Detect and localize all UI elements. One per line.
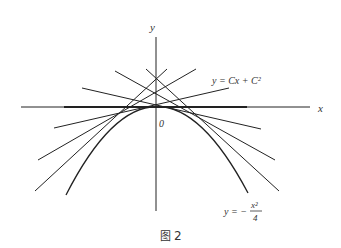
caption-number: 2 [174,229,182,243]
tangent-line [35,69,167,191]
origin-label: 0 [159,118,164,129]
tangent-line [38,69,196,160]
envelope-denominator: 4 [253,213,258,223]
x-axis-label: x [317,102,323,114]
tangent-line [146,69,279,191]
diagram: y x 0 y = Cx + C² y = − x² 4 图 2 [0,0,341,248]
caption-icon: 图 [160,230,171,243]
y-axis-label: y [149,21,155,33]
line-family-label: y = Cx + C² [211,75,262,86]
envelope-numerator: x² [250,200,258,210]
envelope-label: y = − [223,206,247,217]
